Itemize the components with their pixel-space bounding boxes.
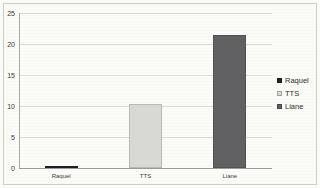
y-axis-line <box>19 13 20 168</box>
legend-color-swatch-icon <box>277 104 282 109</box>
y-axis-tick-label: 20 <box>1 41 15 48</box>
legend-entry-raquel: Raquel <box>277 74 309 87</box>
y-axis-tick-label: 15 <box>1 72 15 79</box>
legend-entry-liane: Liane <box>277 100 309 113</box>
bar-chart-plot-area: 0510152025RaquelTTSLiane <box>0 0 320 188</box>
y-gridline <box>19 13 272 14</box>
y-axis-tick-label: 0 <box>1 165 15 172</box>
chart-scan-page: 0510152025RaquelTTSLiane RaquelTTSLiane <box>0 0 320 188</box>
bar-raquel <box>45 166 78 168</box>
x-axis-category-label: TTS <box>114 173 178 180</box>
bar-liane <box>213 35 246 168</box>
bar-tts <box>129 104 162 168</box>
chart-legend: RaquelTTSLiane <box>277 74 309 113</box>
x-axis-category-label: Liane <box>198 173 262 180</box>
y-axis-tick-label: 25 <box>1 10 15 17</box>
legend-entry-tts: TTS <box>277 87 309 100</box>
y-axis-tick-label: 10 <box>1 103 15 110</box>
x-axis-category-label: Raquel <box>29 173 93 180</box>
x-axis-line <box>19 168 272 169</box>
legend-label: TTS <box>285 89 299 98</box>
y-axis-tick-label: 5 <box>1 134 15 141</box>
legend-label: Liane <box>285 102 303 111</box>
legend-color-swatch-icon <box>277 91 282 96</box>
legend-color-swatch-icon <box>277 78 282 83</box>
legend-label: Raquel <box>285 76 309 85</box>
